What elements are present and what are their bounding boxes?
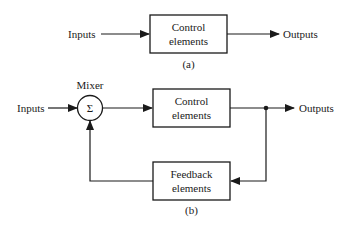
control-block-a-line2: elements xyxy=(169,35,208,47)
control-block-b-line2: elements xyxy=(172,109,211,121)
caption-b: (b) xyxy=(185,204,198,217)
outputs-label-b: Outputs xyxy=(299,102,334,114)
outputs-label-a: Outputs xyxy=(283,28,318,40)
control-block-a-line1: Control xyxy=(172,21,206,33)
sigma-icon: Σ xyxy=(87,102,93,114)
block-diagram: Inputs Control elements Outputs (a) Inpu… xyxy=(0,0,351,227)
feedback-block-line1: Feedback xyxy=(170,168,213,180)
diagram-a: Inputs Control elements Outputs (a) xyxy=(68,15,318,71)
control-block-b-line1: Control xyxy=(175,95,209,107)
caption-a: (a) xyxy=(182,58,195,71)
mixer-label: Mixer xyxy=(77,79,104,91)
feedback-arrow-in xyxy=(231,108,266,181)
inputs-label-a: Inputs xyxy=(68,28,96,40)
feedback-block-line2: elements xyxy=(172,182,211,194)
diagram-b: Inputs Mixer Σ Control elements Outputs … xyxy=(17,79,334,217)
inputs-label-b: Inputs xyxy=(17,102,45,114)
feedback-arrow-to-mixer xyxy=(90,121,153,181)
